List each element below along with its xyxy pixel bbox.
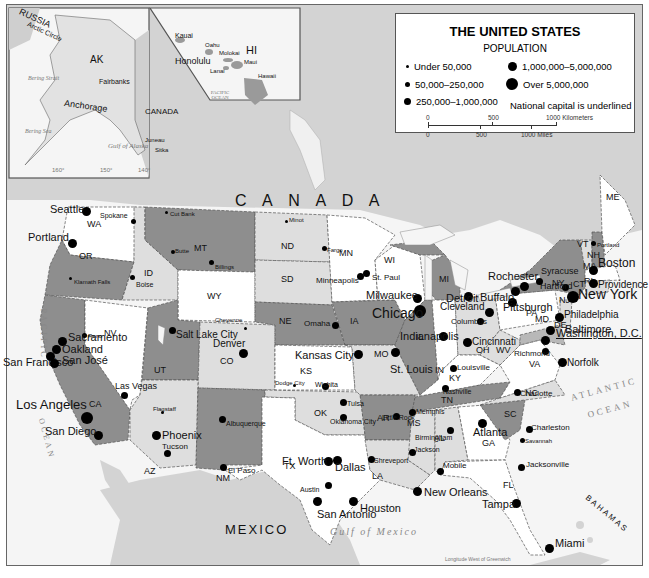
label-hawaii-island: Hawaii — [258, 73, 276, 79]
city-marker-icon[interactable] — [413, 487, 422, 496]
scale-tick — [492, 122, 493, 126]
city-label: Shreveport — [374, 457, 408, 464]
city-label: Boise — [136, 281, 154, 288]
city-marker-icon[interactable] — [589, 266, 598, 275]
city-marker-icon[interactable] — [121, 392, 128, 399]
city-label: Birmingham — [415, 434, 452, 441]
city-marker-icon[interactable] — [409, 409, 416, 416]
city-label: Buffalo — [480, 292, 514, 303]
city-honolulu: Honolulu — [175, 57, 211, 66]
city-label: Minneapolis — [316, 277, 359, 285]
state-wy: WY — [207, 292, 222, 301]
legend-item-1m-5m: 1,000,000–5,000,000 — [508, 61, 612, 72]
city-marker-icon[interactable] — [541, 336, 550, 345]
map-title: THE UNITED STATES — [396, 24, 634, 39]
grid-label: 140° — [138, 167, 150, 173]
city-label: Wichita — [315, 381, 338, 388]
state-md: MD — [535, 315, 549, 324]
city-label: Charlotte — [520, 390, 552, 398]
city-marker-icon[interactable] — [546, 326, 555, 335]
city-marker-icon[interactable] — [463, 338, 472, 347]
city-marker-icon[interactable] — [591, 241, 596, 246]
city-label: Seattle — [50, 204, 84, 215]
scale-km-0: 0 — [426, 114, 430, 121]
city-marker-icon[interactable] — [209, 260, 214, 265]
legend-capital-note: National capital is underlined — [510, 100, 631, 111]
city-label: Baltimore — [565, 324, 611, 335]
label-longitude-note: Longitude West of Greenwich — [445, 557, 511, 562]
city-marker-icon[interactable] — [50, 359, 59, 368]
city-marker-icon[interactable] — [518, 464, 525, 471]
city-label: Houston — [360, 503, 401, 514]
city-marker-icon[interactable] — [313, 497, 322, 506]
legend-item-50k-250k: 50,000–250,000 — [405, 79, 484, 90]
city-marker-icon[interactable] — [325, 482, 332, 489]
city-marker-icon[interactable] — [520, 438, 525, 443]
city-label: Providence — [598, 280, 648, 290]
city-label: Cincinnati — [472, 337, 516, 347]
state-wa: WA — [87, 220, 101, 229]
city-marker-icon[interactable] — [285, 220, 288, 223]
city-label: Flagstaff — [153, 406, 176, 412]
city-marker-icon[interactable] — [363, 270, 370, 277]
legend-item-over-5m: Over 5,000,000 — [506, 78, 589, 90]
scale-mi-0: 0 — [426, 131, 430, 138]
city-marker-icon[interactable] — [349, 497, 358, 506]
city-marker-icon[interactable] — [447, 427, 454, 434]
legend-label: Under 50,000 — [414, 61, 472, 72]
city-marker-icon[interactable] — [152, 431, 161, 440]
city-label: San Diego — [45, 426, 96, 437]
city-label: New Orleans — [424, 487, 488, 498]
legend-item-under-50k: Under 50,000 — [406, 61, 472, 72]
city-marker-icon[interactable] — [520, 282, 529, 291]
city-marker-icon[interactable] — [220, 464, 227, 471]
city-label: Portland — [28, 232, 69, 243]
city-marker-icon[interactable] — [165, 211, 168, 214]
city-marker-icon[interactable] — [239, 349, 248, 358]
city-label: Jackson — [414, 446, 440, 453]
city-label: Tucson — [162, 443, 188, 451]
city-marker-icon[interactable] — [558, 358, 567, 367]
city-label: Atlanta — [473, 427, 507, 438]
city-marker-icon[interactable] — [219, 416, 226, 423]
legend-item-250k-1m: 250,000–1,000,000 — [404, 96, 498, 107]
city-marker-icon[interactable] — [332, 322, 339, 329]
state-wi: WI — [384, 256, 395, 265]
city-marker-icon[interactable] — [536, 278, 543, 285]
dot-icon — [404, 98, 411, 105]
city-marker-icon[interactable] — [391, 348, 400, 357]
city-marker-icon[interactable] — [450, 365, 457, 372]
city-label: Omaha — [304, 320, 330, 328]
city-marker-icon[interactable] — [81, 412, 93, 424]
city-label: Cleveland — [440, 302, 484, 312]
city-marker-icon[interactable] — [69, 277, 72, 280]
state-fl: FL — [503, 481, 514, 490]
scale-tick — [428, 122, 429, 128]
state-hi: HI — [246, 45, 257, 56]
scale-tick — [531, 125, 532, 129]
dot-icon — [405, 82, 410, 87]
city-label: Portland — [597, 242, 619, 248]
city-marker-icon[interactable] — [545, 544, 554, 553]
city-marker-icon[interactable] — [354, 350, 363, 359]
state-ne: NE — [279, 317, 292, 326]
city-marker-icon[interactable] — [589, 279, 598, 288]
city-marker-icon[interactable] — [340, 399, 347, 406]
city-marker-icon[interactable] — [169, 327, 176, 334]
city-label: Sacramento — [68, 332, 127, 343]
city-marker-icon[interactable] — [130, 275, 135, 280]
city-marker-icon[interactable] — [244, 327, 247, 330]
city-fairbanks: Fairbanks — [99, 78, 130, 85]
state-mi: MI — [439, 275, 449, 284]
city-marker-icon[interactable] — [322, 246, 327, 251]
state-ak: AK — [90, 55, 103, 65]
city-label: Cheyenne — [215, 317, 242, 323]
city-label: Norfolk — [567, 358, 599, 368]
city-marker-icon[interactable] — [485, 308, 494, 317]
label-pacific: PACIFIC — [39, 309, 47, 360]
city-marker-icon[interactable] — [131, 219, 136, 224]
state-az: AZ — [144, 467, 156, 476]
state-or: OR — [79, 252, 93, 261]
city-marker-icon[interactable] — [555, 313, 564, 322]
city-sitka: Sitka — [155, 147, 168, 153]
